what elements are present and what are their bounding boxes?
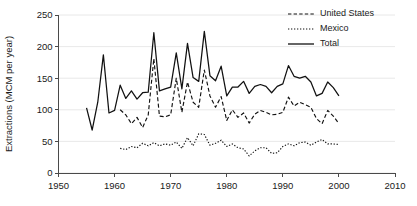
y-tick-label-100: 100 <box>37 104 53 115</box>
y-tick-label-0: 0 <box>47 167 52 178</box>
legend-item-united-states-label: United States <box>320 8 375 18</box>
x-tick-label-2010: 2010 <box>384 180 405 191</box>
y-axis-title: Extractions (MCM per year) <box>3 36 14 152</box>
x-tick-label-2000: 2000 <box>328 180 349 191</box>
x-tick-label-1970: 1970 <box>160 180 181 191</box>
x-tick-label-1980: 1980 <box>216 180 237 191</box>
x-tick-label-1990: 1990 <box>272 180 293 191</box>
x-tick-label-1950: 1950 <box>48 180 69 191</box>
y-tick-label-150: 150 <box>37 73 53 84</box>
legend-item-total-label: Total <box>320 38 339 48</box>
y-tick-label-250: 250 <box>37 9 53 20</box>
y-axis-ticks: 050100150200250 <box>37 9 59 178</box>
data-series-group <box>87 31 339 156</box>
series-line-mexico <box>120 134 339 156</box>
legend-item-mexico-label: Mexico <box>320 23 349 33</box>
x-tick-label-1960: 1960 <box>104 180 125 191</box>
y-tick-label-200: 200 <box>37 41 53 52</box>
chart-legend: United StatesMexicoTotal <box>288 8 375 48</box>
x-axis-ticks: 1950196019701980199020002010 <box>48 173 406 191</box>
y-tick-label-50: 50 <box>42 136 53 147</box>
series-line-united-states <box>120 59 339 128</box>
line-chart: 050100150200250 195019601970198019902000… <box>0 0 417 206</box>
chart-figure: 050100150200250 195019601970198019902000… <box>0 0 417 206</box>
